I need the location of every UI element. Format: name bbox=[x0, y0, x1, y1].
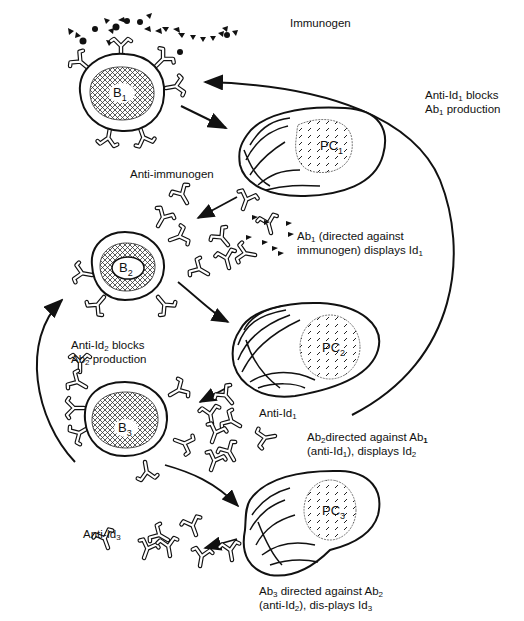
anti-id3-label: Anti-Id3 bbox=[83, 527, 121, 541]
arrow-b3-to-pc3 bbox=[165, 465, 238, 506]
b3-cell: B3 bbox=[66, 355, 194, 480]
b1-cell: B1 bbox=[69, 39, 185, 147]
immunogen-label: Immunogen bbox=[290, 17, 351, 29]
anti-immunogen-label: Anti-immunogen bbox=[130, 168, 214, 180]
ab2-description-label: Ab2directed against Ab1 (anti-Id1), disp… bbox=[307, 430, 428, 458]
pc2-plasma-cell: PC2 bbox=[233, 303, 380, 397]
arrow-b2-to-pc2 bbox=[178, 282, 228, 322]
anti-id2-blocks-label: Anti-Id2 blocks Ab2 production bbox=[71, 338, 146, 366]
pc1-plasma-cell: PC1 bbox=[239, 107, 385, 196]
arrow-pc1-to-b2 bbox=[198, 197, 237, 218]
anti-id1-label: Anti-Id1 bbox=[259, 406, 297, 420]
ab1-description-label: Ab1 (directed against immunogen) display… bbox=[297, 229, 423, 257]
ab1-antibodies bbox=[170, 183, 294, 282]
b2-cell: B2 bbox=[74, 206, 190, 316]
arrow-b1-to-pc1 bbox=[181, 106, 226, 128]
pc3-plasma-cell: PC3 bbox=[244, 471, 380, 576]
anti-id1-blocks-label: Anti-Id1 blocks Ab1 production bbox=[425, 88, 500, 116]
feedback-arrow-anti-id3 bbox=[37, 300, 75, 462]
immunogen-particles bbox=[68, 13, 238, 55]
ab3-description-label: Ab3 directed against Ab2 (anti-Id2), dis… bbox=[259, 584, 383, 612]
